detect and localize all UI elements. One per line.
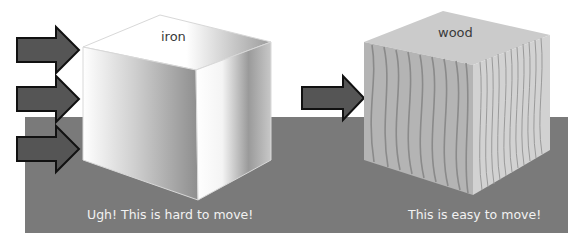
iron-caption: Ugh! This is hard to move! [87, 207, 253, 222]
wood-label: wood [438, 25, 473, 40]
arrow-icon [17, 76, 79, 122]
arrow-icon [17, 27, 79, 73]
iron-label: iron [161, 29, 186, 44]
wood-push-arrow [302, 76, 364, 120]
friction-diagram: iron Ugh! This is hard to move! wood Thi… [0, 0, 585, 245]
arrow-icon [302, 76, 364, 120]
wood-caption: This is easy to move! [408, 207, 541, 222]
iron-push-arrows [17, 27, 79, 172]
